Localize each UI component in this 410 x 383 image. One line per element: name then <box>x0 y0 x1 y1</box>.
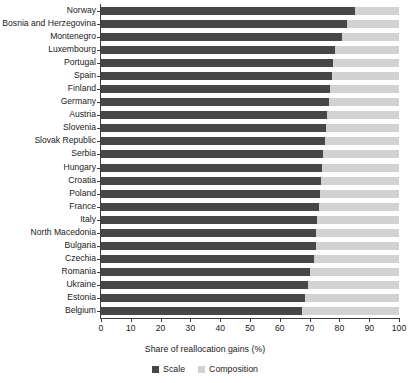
x-axis-tick-label: 80 <box>327 323 351 333</box>
bar-segment-composition <box>302 307 399 315</box>
bar-segment-composition <box>310 268 399 276</box>
bar-row <box>101 150 399 158</box>
bar-segment-scale <box>101 72 332 80</box>
bar-segment-scale <box>101 242 316 250</box>
x-axis-tick <box>339 319 340 322</box>
bar-segment-composition <box>330 85 399 93</box>
bar-segment-scale <box>101 294 305 302</box>
category-label: Estonia <box>0 293 96 302</box>
y-axis-tick <box>97 141 100 142</box>
y-axis-tick <box>97 76 100 77</box>
bar-segment-scale <box>101 59 333 67</box>
legend-swatch-scale <box>152 366 159 373</box>
x-axis-tick <box>220 319 221 322</box>
bar-segment-composition <box>332 72 399 80</box>
bar-row <box>101 124 399 132</box>
y-axis-tick <box>97 311 100 312</box>
x-axis-tick-label: 70 <box>298 323 322 333</box>
category-label: Slovenia <box>0 123 96 132</box>
bar-segment-scale <box>101 164 322 172</box>
bar-row <box>101 242 399 250</box>
bar-segment-composition <box>326 124 399 132</box>
legend-label-composition: Composition <box>209 364 258 374</box>
bar-segment-scale <box>101 7 355 15</box>
x-axis-tick <box>101 319 102 322</box>
bar-row <box>101 59 399 67</box>
bar-segment-composition <box>316 229 399 237</box>
bar-row <box>101 98 399 106</box>
x-axis-tick <box>161 319 162 322</box>
category-label: Czechia <box>0 254 96 263</box>
x-axis-title: Share of reallocation gains (%) <box>0 344 410 354</box>
bar-segment-composition <box>322 164 399 172</box>
bar-segment-scale <box>101 203 319 211</box>
y-axis-tick <box>97 181 100 182</box>
bar-segment-composition <box>317 216 399 224</box>
y-axis-tick <box>97 233 100 234</box>
category-label: Italy <box>0 215 96 224</box>
category-label: North Macedonia <box>0 228 96 237</box>
bar-segment-composition <box>342 33 399 41</box>
bar-row <box>101 177 399 185</box>
bar-segment-scale <box>101 177 321 185</box>
bar-row <box>101 20 399 28</box>
category-label: Croatia <box>0 176 96 185</box>
category-label: Spain <box>0 71 96 80</box>
y-axis-tick <box>97 37 100 38</box>
bar-segment-scale <box>101 20 347 28</box>
x-axis-tick-label: 30 <box>178 323 202 333</box>
x-axis-tick-label: 10 <box>119 323 143 333</box>
category-label: Montenegro <box>0 32 96 41</box>
bar-segment-scale <box>101 85 330 93</box>
bar-row <box>101 216 399 224</box>
legend-swatch-composition <box>198 366 205 373</box>
bar-segment-composition <box>316 242 399 250</box>
y-axis-tick <box>97 272 100 273</box>
x-axis-tick <box>131 319 132 322</box>
x-axis-tick <box>310 319 311 322</box>
bar-row <box>101 229 399 237</box>
category-label: Slovak Republic <box>0 136 96 145</box>
bar-segment-composition <box>333 59 399 67</box>
x-axis-tick-label: 90 <box>357 323 381 333</box>
y-axis-tick <box>97 194 100 195</box>
x-axis-tick <box>280 319 281 322</box>
bar-segment-composition <box>355 7 399 15</box>
bar-segment-scale <box>101 33 342 41</box>
bar-segment-composition <box>305 294 399 302</box>
category-label: Bosnia and Herzegovina <box>0 19 96 28</box>
bar-segment-scale <box>101 216 317 224</box>
y-axis-tick <box>97 11 100 12</box>
category-label: France <box>0 202 96 211</box>
bar-segment-scale <box>101 190 320 198</box>
bar-segment-scale <box>101 124 326 132</box>
y-axis-tick <box>97 115 100 116</box>
y-axis-tick <box>97 89 100 90</box>
bar-segment-composition <box>347 20 399 28</box>
bar-row <box>101 255 399 263</box>
bar-segment-composition <box>323 150 399 158</box>
bar-segment-scale <box>101 111 327 119</box>
bar-segment-composition <box>325 137 400 145</box>
y-axis-tick <box>97 50 100 51</box>
bar-segment-composition <box>308 281 399 289</box>
x-axis-tick <box>190 319 191 322</box>
category-label: Finland <box>0 84 96 93</box>
category-label: Belgium <box>0 306 96 315</box>
bar-segment-scale <box>101 307 302 315</box>
bar-row <box>101 164 399 172</box>
category-label: Ukraine <box>0 280 96 289</box>
x-axis-tick-label: 0 <box>89 323 113 333</box>
category-label: Serbia <box>0 149 96 158</box>
y-axis-tick <box>97 207 100 208</box>
bar-segment-composition <box>329 98 399 106</box>
x-axis-tick <box>399 319 400 322</box>
bar-row <box>101 72 399 80</box>
y-axis-tick <box>97 246 100 247</box>
bar-segment-scale <box>101 98 329 106</box>
y-axis-tick <box>97 24 100 25</box>
bar-segment-scale <box>101 137 325 145</box>
bar-row <box>101 203 399 211</box>
category-label: Romania <box>0 267 96 276</box>
bar-segment-composition <box>314 255 399 263</box>
